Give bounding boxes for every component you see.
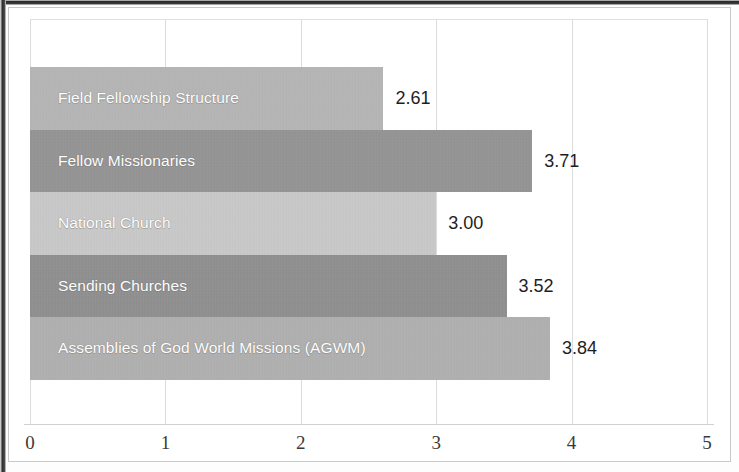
bar-category-label: Assemblies of God World Missions (AGWM) [58, 317, 366, 380]
scan-edge-left [0, 0, 6, 472]
bar-value-label: 2.61 [395, 67, 430, 130]
bar-value-label: 3.71 [544, 130, 579, 193]
x-axis-line [24, 424, 714, 425]
x-tick-5: 5 [702, 432, 712, 454]
bar-row: National Church3.00 [30, 192, 707, 255]
bar-category-label: Sending Churches [58, 255, 187, 318]
x-axis-tick-labels: 012345 [30, 432, 707, 462]
x-tick-3: 3 [431, 432, 441, 454]
bar-value-label: 3.00 [448, 192, 483, 255]
bar-value-label: 3.52 [519, 255, 554, 318]
bar-row: Sending Churches3.52 [30, 255, 707, 318]
bar-chart-screenshot: Field Fellowship Structure2.61Fellow Mis… [0, 0, 739, 472]
bar-category-label: National Church [58, 192, 171, 255]
bar-series: Field Fellowship Structure2.61Fellow Mis… [30, 67, 707, 380]
bar-row: Assemblies of God World Missions (AGWM)3… [30, 317, 707, 380]
x-tick-0: 0 [25, 432, 35, 454]
bar-category-label: Field Fellowship Structure [58, 67, 239, 130]
gridline-5 [707, 19, 708, 424]
x-tick-1: 1 [161, 432, 171, 454]
scan-edge-top [0, 0, 739, 5]
bar-row: Field Fellowship Structure2.61 [30, 67, 707, 130]
bar-row: Fellow Missionaries3.71 [30, 130, 707, 193]
bar-value-label: 3.84 [562, 317, 597, 380]
x-tick-4: 4 [567, 432, 577, 454]
x-tick-2: 2 [296, 432, 306, 454]
bar-category-label: Fellow Missionaries [58, 130, 195, 193]
